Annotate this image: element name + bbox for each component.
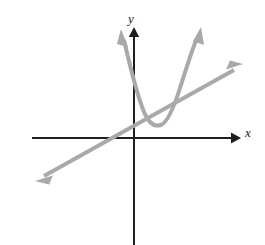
x-axis-label: x xyxy=(245,126,251,139)
linear-function-end-arrowhead xyxy=(226,61,243,70)
graph-figure: y x xyxy=(0,0,265,245)
quadratic-left-arrowhead xyxy=(117,29,128,47)
linear-function-start-arrowhead xyxy=(35,176,53,185)
coordinate-plane xyxy=(0,0,265,245)
axes-group xyxy=(32,27,241,245)
linear-function-curve xyxy=(35,61,243,185)
linear-function-segment xyxy=(44,70,234,176)
x-axis-arrowhead xyxy=(231,133,241,144)
y-axis-label: y xyxy=(128,12,134,25)
y-axis-arrowhead xyxy=(129,27,139,37)
